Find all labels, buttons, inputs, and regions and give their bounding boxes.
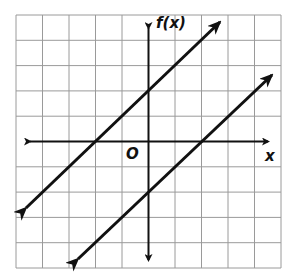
origin-label: O (126, 145, 139, 163)
axes (30, 28, 268, 260)
coordinate-graph (0, 0, 287, 274)
upper-line (26, 22, 220, 208)
y-axis-label: f(x) (156, 14, 186, 32)
x-axis-label: x (265, 147, 275, 165)
